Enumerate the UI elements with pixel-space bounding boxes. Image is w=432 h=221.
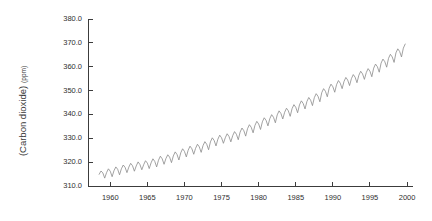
axis-tick-marks [88,19,407,186]
axis-lines [88,19,413,186]
plot-area [0,0,432,221]
co2-line-chart: (Carbon dioxide) (ppm) 310.0320.0330.034… [0,0,432,221]
co2-data-line [99,44,405,178]
